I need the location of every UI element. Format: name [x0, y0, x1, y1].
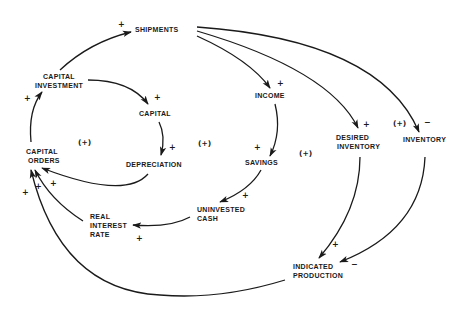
edge-savings-to-uninvested-cash: [220, 170, 261, 202]
node-real-interest-rate: REAL: [90, 213, 111, 220]
node-inventory: INVENTORY: [403, 136, 446, 143]
node-capital-investment: INVESTMENT: [35, 82, 84, 89]
node-desired-inventory: INVENTORY: [337, 143, 380, 150]
polarity-plus: +: [169, 143, 176, 152]
node-uninvested-cash: UNINVESTED: [197, 206, 245, 213]
node-depreciation: DEPRECIATION: [126, 161, 182, 168]
edge-indicated-production-to-capital-orders: [31, 170, 285, 296]
polarity-plus: +: [50, 179, 57, 188]
node-capital-orders: CAPITAL: [26, 148, 58, 155]
node-indicated-production: PRODUCTION: [293, 272, 343, 279]
loop-marker: (+): [393, 119, 406, 128]
node-income: INCOME: [255, 92, 285, 99]
edge-depreciation-to-capital-orders: [42, 168, 148, 186]
polarity-plus: +: [363, 120, 370, 129]
edge-capital-investment-to-capital: [88, 80, 148, 104]
loop-marker: (+): [78, 138, 91, 147]
edge-capital-orders-to-capital-investment: [30, 92, 42, 142]
polarity-plus: +: [254, 143, 261, 152]
node-desired-inventory: DESIRED: [336, 134, 369, 141]
polarity-minus: −: [424, 118, 431, 127]
polarity-plus: +: [22, 188, 29, 197]
edge-income-to-savings: [270, 104, 278, 156]
node-indicated-production: INDICATED: [293, 263, 333, 270]
edge-inventory-to-indicated-production: [340, 157, 425, 262]
node-real-interest-rate: RATE: [90, 231, 110, 238]
polarity-plus: +: [332, 240, 339, 249]
polarity-plus: +: [242, 191, 249, 200]
loop-marker: (+): [299, 149, 312, 158]
node-shipments: SHIPMENTS: [135, 26, 179, 33]
polarity-plus: +: [136, 234, 143, 243]
edge-desired-inventory-to-indicated-production: [319, 157, 360, 258]
edges: [30, 27, 425, 296]
polarity-plus: +: [118, 20, 125, 29]
node-capital-investment: CAPITAL: [43, 73, 75, 80]
loop-marker: (+): [198, 139, 211, 148]
causal-loop-diagram: SHIPMENTS CAPITAL INVESTMENT CAPITAL CAP…: [0, 0, 469, 312]
edge-capital-investment-to-shipments: [60, 32, 131, 70]
polarity-plus: +: [277, 79, 284, 88]
polarity-plus: +: [24, 94, 31, 103]
polarity-plus: +: [154, 93, 161, 102]
node-real-interest-rate: INTEREST: [90, 222, 127, 229]
polarity-minus: −: [351, 260, 358, 269]
nodes: SHIPMENTS CAPITAL INVESTMENT CAPITAL CAP…: [26, 26, 446, 279]
node-capital-orders: ORDERS: [28, 157, 60, 164]
edge-real-interest-rate-to-capital-orders: [35, 170, 83, 221]
edge-uninvested-cash-to-real-interest-rate: [133, 217, 190, 226]
node-capital: CAPITAL: [139, 110, 171, 117]
edge-shipments-to-inventory: [197, 27, 419, 132]
polarity-plus: +: [35, 182, 42, 191]
edge-shipments-to-income: [197, 36, 270, 88]
node-uninvested-cash: CASH: [197, 215, 218, 222]
node-savings: SAVINGS: [245, 159, 278, 166]
edge-capital-to-depreciation: [159, 122, 163, 155]
